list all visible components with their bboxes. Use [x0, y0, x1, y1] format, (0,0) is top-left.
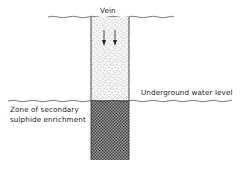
water-level-label: Underground water level	[141, 89, 233, 97]
zone-label-line1: Zone of secondary	[10, 106, 79, 114]
vein-label: Vein	[100, 7, 116, 15]
zone-label-line2: sulphide enrichment	[10, 116, 86, 124]
enrichment-zone	[91, 100, 129, 160]
vein-diagram	[0, 0, 241, 171]
oxidized-zone	[91, 17, 129, 100]
